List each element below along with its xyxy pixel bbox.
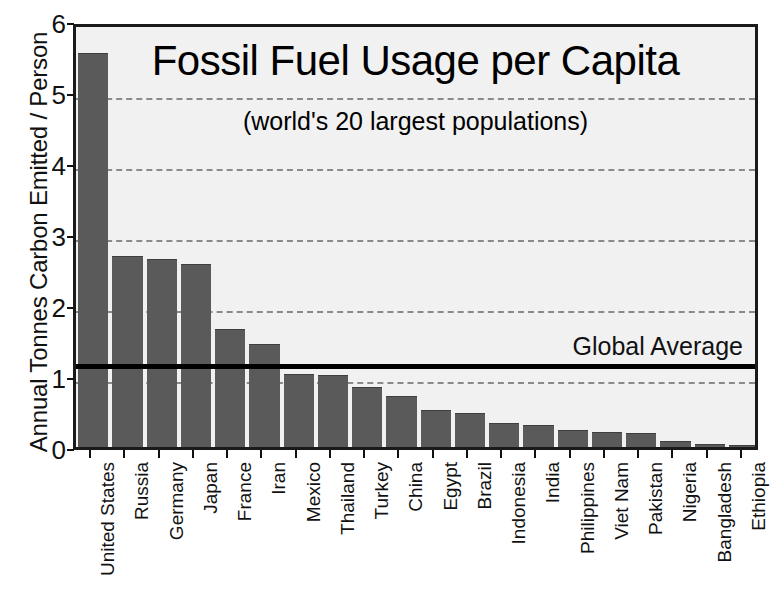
bar: [215, 329, 245, 447]
bar: [695, 444, 725, 447]
bar: [249, 344, 279, 447]
x-tick-label: China: [405, 462, 427, 512]
bar: [729, 445, 758, 447]
bar: [626, 433, 656, 447]
y-tick-mark: [67, 307, 74, 309]
y-tick-mark: [67, 236, 74, 238]
x-tick-mark: [158, 450, 160, 458]
x-tick-mark: [637, 450, 639, 458]
bar: [112, 256, 142, 447]
x-tick-label: Iran: [268, 462, 290, 495]
x-tick-mark: [192, 450, 194, 458]
bars-container: [76, 27, 755, 447]
bar: [421, 410, 451, 447]
bar: [455, 413, 485, 447]
global-average-line: [76, 364, 755, 369]
x-tick-mark: [740, 450, 742, 458]
bar: [284, 374, 314, 447]
y-tick-label: 6: [40, 11, 66, 37]
x-tick-mark: [432, 450, 434, 458]
x-tick-mark: [89, 450, 91, 458]
x-tick-mark: [569, 450, 571, 458]
y-tick-mark: [67, 378, 74, 380]
x-tick-label: Pakistan: [645, 462, 667, 535]
x-tick-mark: [123, 450, 125, 458]
chart-subtitle: (world's 20 largest populations): [76, 107, 755, 136]
x-tick-mark: [603, 450, 605, 458]
x-tick-label: Philippines: [577, 462, 599, 554]
y-tick-mark: [67, 165, 74, 167]
bar: [489, 423, 519, 447]
bar: [592, 432, 622, 447]
x-tick-label: France: [234, 462, 256, 521]
bar: [147, 259, 177, 447]
x-tick-mark: [500, 450, 502, 458]
x-tick-mark: [260, 450, 262, 458]
x-tick-label: Japan: [200, 462, 222, 514]
x-tick-label: Turkey: [371, 462, 393, 519]
bar: [181, 264, 211, 447]
global-average-label: Global Average: [573, 332, 744, 361]
x-tick-label: Russia: [131, 462, 153, 520]
y-tick-label: 2: [40, 295, 66, 321]
x-tick-mark: [706, 450, 708, 458]
y-tick-label: 4: [40, 153, 66, 179]
x-axis-tick-labels: United StatesRussiaGermanyJapanFranceIra…: [73, 450, 758, 610]
x-tick-mark: [534, 450, 536, 458]
x-tick-mark: [671, 450, 673, 458]
x-tick-label: Bangladesh: [714, 462, 736, 562]
y-axis-tick-labels: 0123456: [38, 0, 66, 610]
y-tick-label: 0: [40, 437, 66, 463]
x-tick-mark: [466, 450, 468, 458]
y-tick-mark: [67, 94, 74, 96]
y-tick-mark: [67, 449, 74, 451]
bar: [660, 441, 690, 447]
x-tick-label: Indonesia: [508, 462, 530, 544]
x-tick-label: Mexico: [303, 462, 325, 522]
x-tick-mark: [397, 450, 399, 458]
y-tick-label: 5: [40, 82, 66, 108]
chart-title: Fossil Fuel Usage per Capita: [76, 37, 755, 85]
y-tick-mark: [67, 23, 74, 25]
x-tick-label: Germany: [166, 462, 188, 540]
x-tick-mark: [295, 450, 297, 458]
x-tick-label: Egypt: [440, 462, 462, 511]
x-tick-mark: [329, 450, 331, 458]
bar: [558, 430, 588, 447]
y-tick-label: 1: [40, 366, 66, 392]
y-tick-label: 3: [40, 224, 66, 250]
x-tick-label: Brazil: [474, 462, 496, 510]
x-tick-label: Nigeria: [679, 462, 701, 522]
x-tick-mark: [363, 450, 365, 458]
x-tick-label: Ethiopia: [748, 462, 770, 531]
x-tick-label: United States: [97, 462, 119, 576]
bar: [523, 425, 553, 447]
bar: [352, 387, 382, 447]
bar: [386, 396, 416, 447]
plot-area: Global Average Fossil Fuel Usage per Cap…: [73, 24, 758, 450]
fossil-fuel-usage-bar-chart: Annual Tonnes Carbon Emitted / Person 01…: [0, 0, 773, 610]
x-tick-label: Thailand: [337, 462, 359, 535]
bar: [318, 375, 348, 447]
x-tick-label: India: [542, 462, 564, 503]
x-tick-mark: [226, 450, 228, 458]
x-tick-label: Viet Nam: [611, 462, 633, 540]
